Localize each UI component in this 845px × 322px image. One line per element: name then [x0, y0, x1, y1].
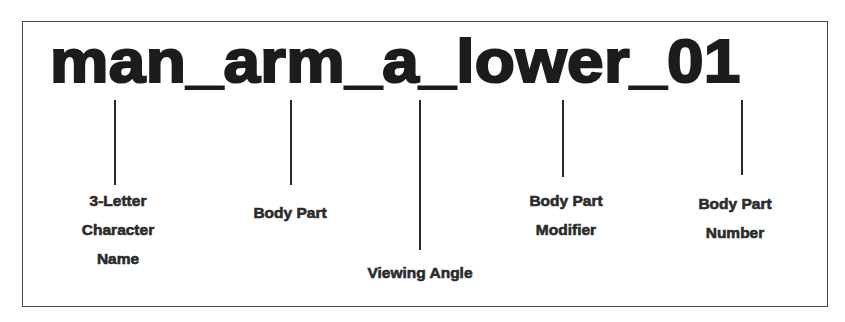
connector-line-body-part [290, 100, 292, 185]
connector-line-viewing-angle [419, 100, 421, 250]
filename-title: man_arm_a_lower_01 [50, 26, 829, 96]
connector-line-character-name [114, 100, 116, 185]
label-body-part-number: Body Part Number [698, 189, 771, 247]
label-line: 3-Letter [82, 186, 154, 215]
label-line: Body Part [529, 186, 602, 215]
label-line: Body Part [698, 189, 771, 218]
label-line: Number [698, 218, 771, 247]
label-body-part: Body Part [253, 198, 326, 227]
label-line: Modifier [529, 215, 602, 244]
connector-line-body-part-modifier [562, 100, 564, 177]
label-body-part-modifier: Body Part Modifier [529, 186, 602, 244]
label-viewing-angle: Viewing Angle [367, 258, 472, 287]
label-line: Name [82, 244, 154, 273]
connector-line-body-part-number [741, 100, 743, 175]
label-line: Viewing Angle [367, 258, 472, 287]
label-line: Body Part [253, 198, 326, 227]
label-character-name: 3-Letter Character Name [82, 186, 154, 273]
label-line: Character [82, 215, 154, 244]
